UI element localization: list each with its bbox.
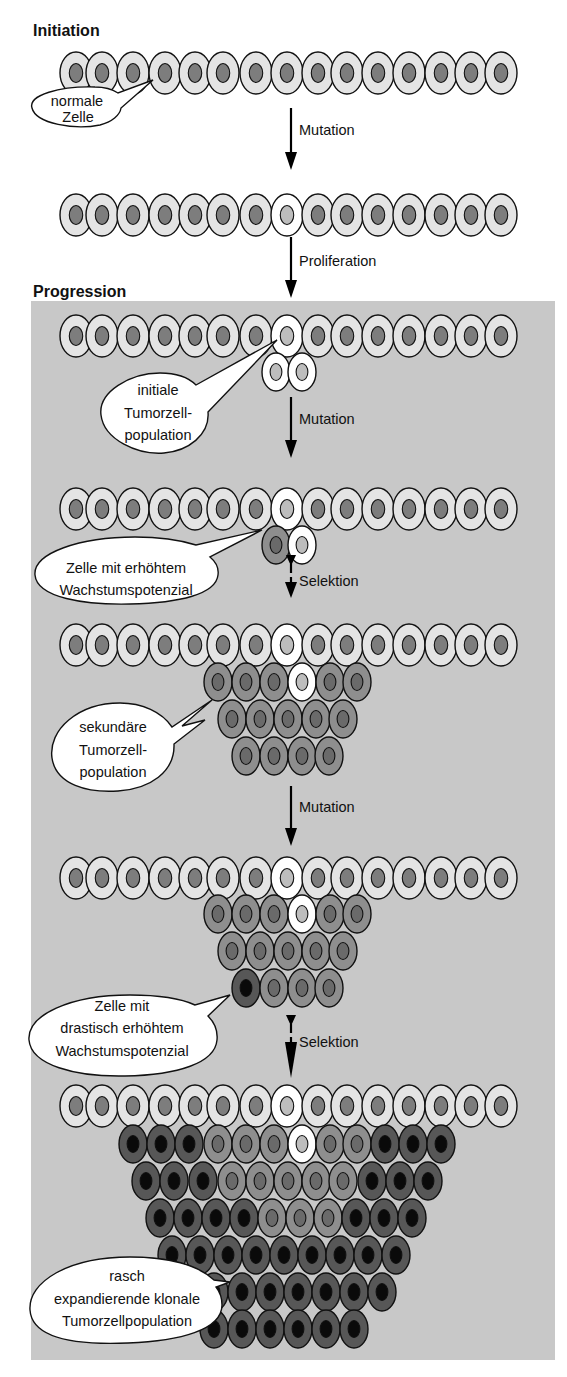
step-label-mutation-3: Mutation [299, 799, 355, 815]
cell-normal [362, 1085, 394, 1127]
cell-secondary [204, 895, 232, 933]
cell-normal [149, 194, 181, 236]
callout-text: Zelle mit [95, 998, 150, 1014]
cell-secondary [288, 737, 316, 775]
cell-mutated [271, 315, 303, 357]
cell-secondary [246, 700, 274, 738]
cell-normal [393, 857, 425, 899]
cell-aggressive [146, 1199, 174, 1237]
cell-normal [86, 624, 118, 666]
cell-secondary [315, 969, 343, 1007]
cell-normal [331, 315, 363, 357]
cell-mutated [271, 194, 303, 236]
callout-text: Tumorzellpopulation [62, 1313, 192, 1329]
callout-text: sekundäre [79, 719, 147, 735]
cell-normal [331, 194, 363, 236]
cell-secondary [302, 932, 330, 970]
progression-title: Progression [33, 283, 126, 300]
cell-normal [117, 488, 149, 530]
cell-normal [149, 857, 181, 899]
callout-text: population [80, 764, 147, 780]
cell-normal [362, 194, 394, 236]
cell-normal [207, 624, 239, 666]
cell-secondary [302, 1162, 330, 1200]
cell-aggressive [340, 1310, 368, 1348]
cell-normal [240, 194, 272, 236]
cell-mutated [271, 488, 303, 530]
callout-normale-zelle: normale Zelle [32, 80, 153, 127]
callout-text: Tumorzell- [79, 742, 147, 758]
cell-normal [425, 315, 457, 357]
cell-secondary [316, 895, 344, 933]
cell-aggressive [230, 1199, 258, 1237]
cell-normal [149, 1085, 181, 1127]
cell-aggressive [414, 1162, 442, 1200]
cell-secondary [329, 1162, 357, 1200]
cell-normal [393, 488, 425, 530]
cell-secondary [260, 663, 288, 701]
cell-normal [331, 624, 363, 666]
cell-mutated [288, 663, 316, 701]
cell-aggressive [160, 1162, 188, 1200]
cell-aggressive [427, 1125, 455, 1163]
cell-secondary [232, 663, 260, 701]
cell-normal [302, 315, 334, 357]
cell-normal [425, 624, 457, 666]
cell-aggressive [242, 1236, 270, 1274]
cell-normal [302, 857, 334, 899]
cell-secondary [329, 932, 357, 970]
cell-normal [455, 194, 487, 236]
callout-text: Tumorzell- [124, 405, 192, 421]
cell-normal [362, 857, 394, 899]
cell-normal [455, 315, 487, 357]
cell-secondary [302, 700, 330, 738]
cell-normal [425, 1085, 457, 1127]
step-label-mutation-1: Mutation [299, 122, 355, 138]
cell-normal [362, 624, 394, 666]
cell-mutated [288, 353, 316, 391]
callout-text: population [125, 427, 192, 443]
cell-secondary [260, 737, 288, 775]
cell-secondary [262, 526, 290, 564]
cell-secondary [315, 737, 343, 775]
callout-text: expandierende klonale [54, 1291, 200, 1307]
cell-normal [302, 488, 334, 530]
cell-normal [86, 1085, 118, 1127]
cell-secondary [343, 895, 371, 933]
cell-normal [455, 52, 487, 94]
cell-normal [455, 624, 487, 666]
cell-normal [425, 857, 457, 899]
cell-secondary [329, 700, 357, 738]
cell-aggressive [214, 1236, 242, 1274]
cell-secondary [274, 1162, 302, 1200]
cell-aggressive [284, 1310, 312, 1348]
callout-text: Wachstumspotenzial [59, 582, 192, 598]
cell-aggressive [312, 1273, 340, 1311]
cell-normal [207, 857, 239, 899]
cell-mutated [262, 353, 290, 391]
cell-secondary [246, 1162, 274, 1200]
step-label-mutation-2: Mutation [299, 411, 355, 427]
cell-secondary [232, 1125, 260, 1163]
cell-normal [86, 857, 118, 899]
cell-normal [331, 52, 363, 94]
cell-aggressive [368, 1273, 396, 1311]
cell-secondary [274, 932, 302, 970]
cell-secondary [343, 663, 371, 701]
cell-aggressive [354, 1236, 382, 1274]
cell-aggressive [398, 1199, 426, 1237]
cell-aggressive [189, 1162, 217, 1200]
cell-normal [485, 857, 517, 899]
cell-normal [362, 315, 394, 357]
cell-normal [393, 1085, 425, 1127]
cell-normal [302, 1085, 334, 1127]
cell-aggressive [342, 1199, 370, 1237]
cell-normal [240, 488, 272, 530]
cell-normal [179, 1085, 211, 1127]
cell-aggressive [147, 1125, 175, 1163]
cell-aggressive [298, 1236, 326, 1274]
cell-aggressive [340, 1273, 368, 1311]
cell-normal [240, 857, 272, 899]
cell-normal [240, 52, 272, 94]
cell-normal [425, 194, 457, 236]
